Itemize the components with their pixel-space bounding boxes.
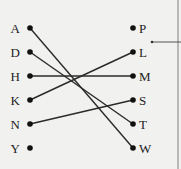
left-dot-icon [27,49,33,55]
left-label: K [11,93,21,108]
left-dot-icon [27,121,33,127]
connection-N-S [30,100,133,124]
right-label: S [139,93,146,108]
right-dot-icon [130,25,136,31]
left-label: Y [11,141,21,156]
right-dot-icon [130,97,136,103]
left-label: N [11,117,21,132]
callout-dot-icon [151,41,154,44]
left-label: H [11,69,20,84]
matching-diagram: ADHKNY PLMSTW [0,0,181,169]
right-label: T [139,117,147,132]
left-dot-icon [27,145,33,151]
right-dot-icon [130,145,136,151]
right-label: W [139,141,152,156]
right-column: PLMSTW [130,21,152,156]
right-dot-icon [130,49,136,55]
right-dot-icon [130,121,136,127]
left-label: D [11,45,20,60]
right-label: M [139,69,151,84]
connection-D-T [30,52,133,124]
callout-pointer [151,41,181,44]
left-dot-icon [27,97,33,103]
right-label: P [139,21,146,36]
right-dot-icon [130,73,136,79]
left-dot-icon [27,25,33,31]
connection-lines [30,28,133,148]
left-dot-icon [27,73,33,79]
left-label: A [11,21,21,36]
left-column: ADHKNY [11,21,33,156]
right-label: L [139,45,147,60]
